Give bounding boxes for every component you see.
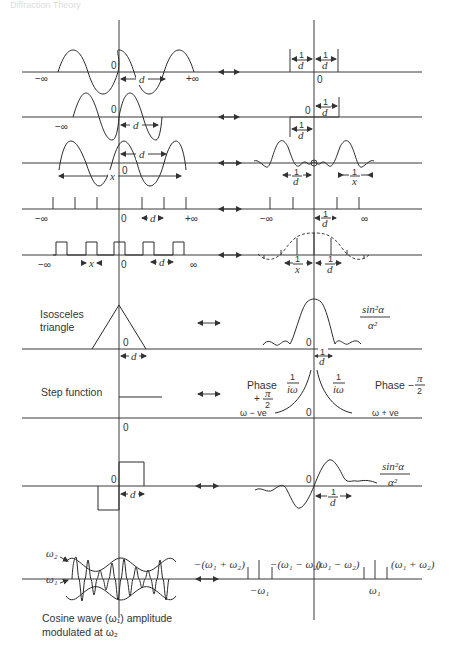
svg-text:d: d [322, 106, 328, 118]
neg-w1-plus-w2-label: −(ω₁ + ω₂) [194, 558, 245, 571]
d-label: d [133, 119, 139, 131]
svg-text:d: d [319, 355, 325, 367]
neg-inf-label: −∞ [55, 121, 68, 132]
triangle-label: triangle [40, 321, 75, 333]
svg-text:0: 0 [305, 105, 311, 116]
fourier-pairs-diagram: Diffraction Theory −∞ 0 d +∞ 1 d 1 d 0 −… [0, 0, 453, 652]
row-am-cosine: ω₂ ω₁ Cosine wave (ω₁) amplitude modulat… [22, 547, 435, 638]
d-label: d [139, 73, 145, 85]
zero-label: 0 [121, 213, 127, 224]
zero-label: 0 [123, 422, 129, 433]
svg-text:1: 1 [290, 372, 295, 382]
x-label: x [109, 170, 115, 182]
d-label: d [159, 256, 165, 268]
zero-label: 0 [111, 104, 117, 115]
step-function-label: Step function [41, 386, 102, 398]
d-label: d [150, 212, 156, 224]
w1-minus-w2-label: (ω₁ − ω₂) [316, 558, 360, 571]
one-over-iw-right: iω [333, 383, 344, 395]
row-cosine-finite: d x 0 1 d 1 x [22, 141, 422, 187]
pos-inf-label: +∞ [186, 73, 199, 84]
svg-text:d: d [322, 217, 328, 229]
neg-inf-label: −∞ [35, 73, 48, 84]
inf-label: ∞ [190, 259, 197, 270]
svg-text:x: x [351, 175, 357, 187]
zero-label: 0 [317, 74, 323, 85]
d-label: d [139, 148, 145, 160]
svg-text:1: 1 [336, 372, 341, 382]
w1-plus-w2-label: (ω₁ + ω₂) [391, 558, 435, 571]
sin2a-label: sin²α [382, 460, 404, 472]
svg-text:x: x [294, 263, 300, 275]
a2-label: α² [388, 476, 398, 488]
caption-line2: modulated at ω₂ [42, 626, 118, 638]
pos-inf-label: +∞ [185, 213, 198, 224]
zero-label: 0 [306, 337, 312, 348]
row-odd-rect: 0 d 0 1 d sin²α α² [22, 460, 422, 510]
zero-label: 0 [123, 337, 129, 348]
sinc-squared-curve [263, 299, 361, 345]
inf-label: ∞ [361, 213, 368, 224]
svg-text:+: + [254, 393, 260, 404]
zero-label: 0 [111, 474, 117, 485]
neg-w1-minus-w2-label: −(ω₁ − ω₂) [270, 558, 321, 571]
svg-text:π: π [417, 372, 423, 384]
zero-label: 0 [122, 165, 128, 176]
w1-label: ω₁ [46, 573, 58, 585]
row-triangle: Isosceles triangle 0 d 0 1 d sin²α α² [22, 299, 422, 367]
x-label: x [88, 257, 94, 269]
row-step: Step function 0 Phase 1 iω + π 2 ω − ve … [22, 370, 425, 433]
w-plus-ve-label: ω + ve [372, 408, 399, 418]
phase-label-left: Phase [247, 379, 277, 391]
row-cosine-half: −∞ 0 d 0 1 d 1 d [22, 93, 422, 141]
svg-text:d: d [327, 263, 333, 275]
neg-inf-label: −∞ [38, 259, 51, 270]
w2-label: ω₂ [46, 547, 58, 559]
positive-rect [119, 462, 144, 486]
zero-label: 0 [306, 407, 312, 418]
svg-text:d: d [298, 129, 304, 141]
neg-inf-label: −∞ [260, 213, 273, 224]
zero-label: 0 [111, 60, 117, 71]
w1-label: ω₁ [369, 584, 381, 596]
neg-w1-label: −ω₁ [250, 584, 269, 596]
neg-inf-label: −∞ [35, 213, 48, 224]
sin2a-label: sin²α [362, 303, 384, 315]
row-square-train: −∞ x 0 d ∞ 1 x 1 d [22, 233, 422, 275]
svg-text:d: d [293, 175, 299, 187]
a2-label: α² [368, 319, 378, 331]
odd-sinc-curve [255, 460, 377, 508]
negative-rect [98, 486, 119, 510]
d-label: d [130, 488, 136, 500]
header-text: Diffraction Theory [10, 0, 81, 10]
phase-minus-label: Phase − [375, 379, 414, 391]
svg-text:d: d [330, 496, 336, 508]
d-label: d [131, 350, 137, 362]
zero-label: 0 [306, 474, 312, 485]
row-cosine-infinite: −∞ 0 d +∞ 1 d 1 d 0 [22, 49, 422, 94]
row-comb: −∞ 0 d +∞ −∞ 1 d ∞ [22, 197, 422, 229]
svg-text:d: d [298, 59, 304, 71]
zero-label: 0 [121, 259, 127, 270]
one-over-iw-left: iω [287, 383, 298, 395]
svg-text:d: d [322, 59, 328, 71]
svg-text:2: 2 [417, 386, 422, 396]
isosceles-label: Isosceles [40, 308, 84, 320]
svg-text:π: π [265, 387, 271, 399]
caption-line1: Cosine wave (ω₁) amplitude [42, 612, 172, 624]
w-minus-ve-label: ω − ve [240, 408, 267, 418]
